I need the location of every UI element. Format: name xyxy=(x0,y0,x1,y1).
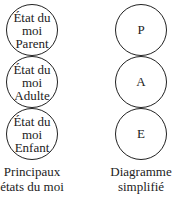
p-circle: P xyxy=(115,4,167,56)
p-label: P xyxy=(137,22,144,38)
child-state-label: État du moi Enfant xyxy=(13,115,50,154)
adult-state-circle: État du moi Adulte xyxy=(6,56,58,108)
a-label: A xyxy=(136,74,145,90)
left-caption: Principaux états du moi xyxy=(0,164,77,194)
a-circle: A xyxy=(115,56,167,108)
e-label: E xyxy=(137,126,145,142)
parent-state-label: État du moi Parent xyxy=(13,11,50,50)
child-state-circle: État du moi Enfant xyxy=(6,108,58,160)
e-circle: E xyxy=(115,108,167,160)
right-caption: Diagramme simplifié xyxy=(96,164,178,194)
parent-state-circle: État du moi Parent xyxy=(6,4,58,56)
adult-state-label: État du moi Adulte xyxy=(13,63,50,102)
